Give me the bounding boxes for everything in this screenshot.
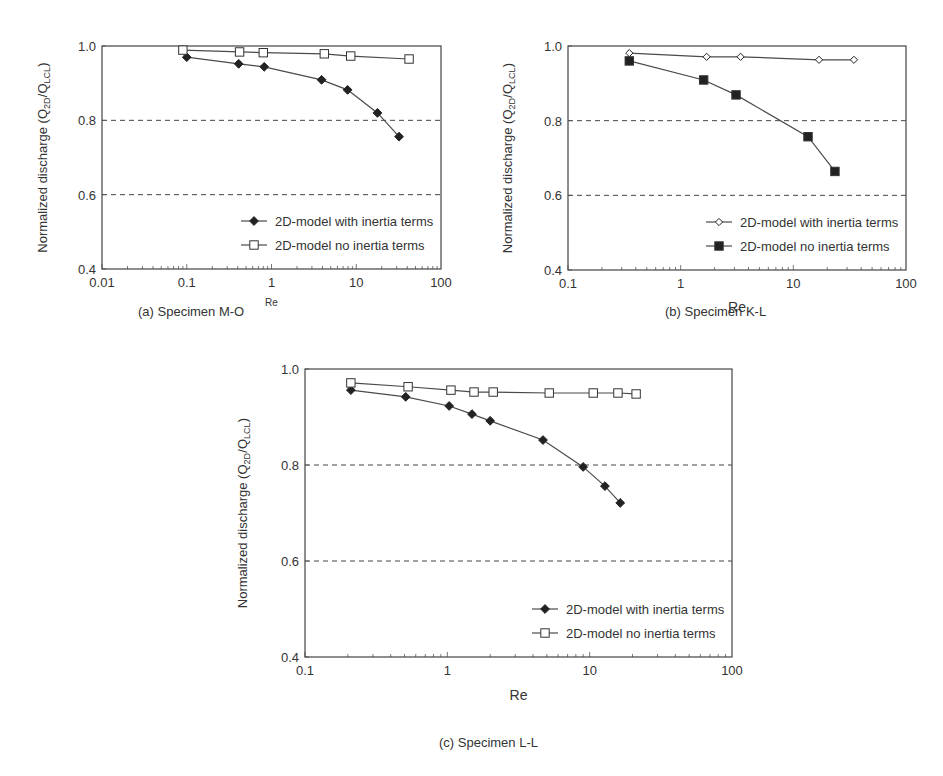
y-tick-label: 1.0 xyxy=(544,39,562,54)
data-point xyxy=(804,133,812,141)
x-axis-label: Re xyxy=(510,687,528,703)
legend-item-2: 2D-model no inertia terms xyxy=(706,239,890,254)
legend-item-1: 2D-model with inertia terms xyxy=(706,215,899,230)
y-tick-label: 0.8 xyxy=(78,113,96,128)
data-point xyxy=(470,388,478,396)
data-point xyxy=(347,379,355,387)
legend-item-1: 2D-model with inertia terms xyxy=(532,602,725,617)
legend-label: 2D-model with inertia terms xyxy=(566,602,725,617)
legend-item-1: 2D-model with inertia terms xyxy=(241,214,434,229)
data-point xyxy=(625,57,633,65)
data-point xyxy=(589,389,597,397)
legend-marker-icon xyxy=(541,605,550,614)
data-point xyxy=(447,386,455,394)
x-tick-label: 0.1 xyxy=(559,276,577,291)
x-tick-label: 1 xyxy=(444,663,451,678)
legend-item-2: 2D-model no inertia terms xyxy=(241,238,425,253)
data-point xyxy=(320,50,328,58)
data-point xyxy=(179,46,187,54)
data-point xyxy=(468,410,477,419)
data-point xyxy=(404,383,412,391)
series-line-2 xyxy=(629,61,835,172)
data-point xyxy=(346,52,354,60)
legend-item-2: 2D-model no inertia terms xyxy=(532,626,716,641)
x-tick-label: 0.1 xyxy=(178,275,196,290)
x-axis-label: Re xyxy=(265,297,278,308)
chart-b: 0.40.60.81.00.1110100ReNormalized discha… xyxy=(500,39,917,315)
data-point xyxy=(831,167,839,175)
x-tick-label: 10 xyxy=(582,663,596,678)
series-line-2 xyxy=(183,50,409,59)
legend-marker-icon xyxy=(715,242,723,250)
data-point xyxy=(545,389,553,397)
data-point xyxy=(699,76,707,84)
legend-label: 2D-model with inertia terms xyxy=(275,214,434,229)
data-point xyxy=(235,48,243,56)
plot-frame xyxy=(568,46,906,270)
data-point xyxy=(626,49,633,56)
x-tick-label: 0.1 xyxy=(296,663,314,678)
legend-label: 2D-model no inertia terms xyxy=(740,239,890,254)
x-tick-label: 0.01 xyxy=(89,275,114,290)
caption-b: (b) Specimen K-L xyxy=(665,304,766,319)
y-tick-label: 0.6 xyxy=(281,554,299,569)
data-point xyxy=(234,59,243,68)
y-axis-label: Normalized discharge (Q2D /QLCL ) xyxy=(500,63,517,253)
x-tick-label: 10 xyxy=(349,275,363,290)
legend-label: 2D-model with inertia terms xyxy=(740,215,899,230)
data-point xyxy=(489,388,497,396)
y-axis-label: Normalized discharge (Q2D /QLCL ) xyxy=(35,62,52,252)
data-point xyxy=(401,392,410,401)
y-tick-label: 0.6 xyxy=(544,188,562,203)
legend-marker-icon xyxy=(715,218,722,225)
x-tick-label: 1 xyxy=(268,275,275,290)
data-point xyxy=(486,416,495,425)
y-tick-label: 0.6 xyxy=(78,188,96,203)
y-tick-label: 0.8 xyxy=(544,114,562,129)
legend-label: 2D-model no inertia terms xyxy=(566,626,716,641)
data-point xyxy=(405,55,413,63)
x-tick-label: 100 xyxy=(895,276,917,291)
chart-c: 0.40.60.81.00.1110100ReNormalized discha… xyxy=(235,362,743,703)
legend-marker-icon xyxy=(250,217,259,226)
series-line-1 xyxy=(351,390,620,503)
y-axis-label: Normalized discharge (Q2D /QLCL ) xyxy=(235,418,252,608)
data-point xyxy=(815,56,822,63)
x-tick-label: 100 xyxy=(430,275,452,290)
data-point xyxy=(632,390,640,398)
y-tick-label: 1.0 xyxy=(78,39,96,54)
data-point xyxy=(539,436,548,445)
data-point xyxy=(614,389,622,397)
y-tick-label: 1.0 xyxy=(281,362,299,377)
data-point xyxy=(737,53,744,60)
x-tick-label: 100 xyxy=(721,663,743,678)
data-point xyxy=(850,56,857,63)
figure: 0.40.60.81.00.010.1110100ReNormalized di… xyxy=(0,0,943,776)
data-point xyxy=(732,91,740,99)
legend-label: 2D-model no inertia terms xyxy=(275,238,425,253)
data-point xyxy=(260,62,269,71)
legend-marker-icon xyxy=(541,629,549,637)
data-point xyxy=(703,53,710,60)
x-tick-label: 10 xyxy=(786,276,800,291)
data-point xyxy=(445,402,454,411)
figure-canvas: 0.40.60.81.00.010.1110100ReNormalized di… xyxy=(0,0,943,776)
data-point xyxy=(259,48,267,56)
caption-c: (c) Specimen L-L xyxy=(439,735,538,750)
legend-marker-icon xyxy=(250,241,258,249)
chart-a: 0.40.60.81.00.010.1110100ReNormalized di… xyxy=(35,39,452,308)
data-point xyxy=(317,75,326,84)
x-tick-label: 1 xyxy=(677,276,684,291)
series-line-1 xyxy=(187,57,399,137)
plot-frame xyxy=(102,46,441,269)
caption-a: (a) Specimen M-O xyxy=(138,304,244,319)
y-tick-label: 0.8 xyxy=(281,458,299,473)
